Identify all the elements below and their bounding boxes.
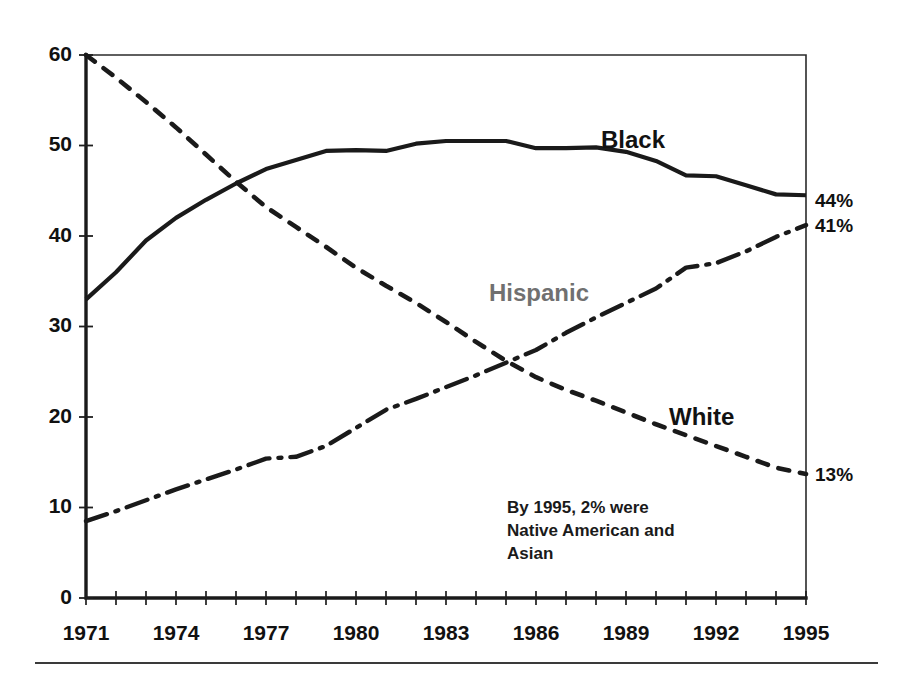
y-tick-40: 40 [49,223,72,246]
annotation-line-1: By 1995, 2% were [507,498,649,517]
end-label-hispanic: 41% [815,215,853,236]
y-tick-50: 50 [49,132,72,155]
line-chart: 0 10 20 30 40 50 60 1971 1974 1977 1980 … [0,0,909,691]
x-tick-1995: 1995 [783,621,830,644]
annotation-line-3: Asian [507,544,553,563]
x-tick-1971: 1971 [63,621,110,644]
y-tick-20: 20 [49,404,72,427]
series-label-white: White [669,403,734,430]
x-tick-1977: 1977 [243,621,290,644]
series-label-hispanic: Hispanic [489,279,589,306]
series-label-black: Black [601,126,666,153]
annotation-line-2: Native American and [507,521,675,540]
end-label-black: 44% [815,190,853,211]
x-tick-1989: 1989 [603,621,650,644]
y-tick-60: 60 [49,42,72,65]
y-tick-30: 30 [49,313,72,336]
y-tick-0: 0 [60,585,72,608]
x-tick-1980: 1980 [333,621,380,644]
x-tick-1992: 1992 [693,621,740,644]
x-tick-1983: 1983 [423,621,470,644]
x-tick-1974: 1974 [153,621,200,644]
chart-background [0,0,909,691]
chart-figure: 0 10 20 30 40 50 60 1971 1974 1977 1980 … [0,0,909,691]
y-tick-10: 10 [49,494,72,517]
x-axis-labels: 1971 1974 1977 1980 1983 1986 1989 1992 … [63,621,830,644]
end-label-white: 13% [815,464,853,485]
x-tick-1986: 1986 [513,621,560,644]
